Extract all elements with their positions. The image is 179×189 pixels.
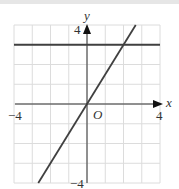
origin-label: O [93, 107, 103, 122]
x-max-label: 4 [156, 108, 163, 123]
axes [15, 24, 163, 183]
x-min-label: −4 [8, 108, 22, 123]
y-min-label: −4 [70, 176, 84, 189]
x-axis-arrow-icon [153, 100, 163, 108]
y-max-label: 4 [74, 22, 81, 37]
y-axis-label: y [82, 8, 90, 23]
x-axis-label: x [165, 95, 172, 110]
graph: y 4 x 4 −4 O −4 [0, 0, 179, 189]
